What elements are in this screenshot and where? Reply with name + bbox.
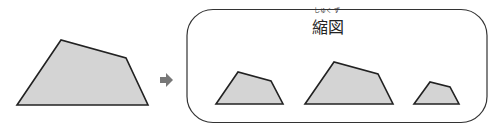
reduced-quadrilateral-2 bbox=[305, 62, 393, 104]
ruby-shuku: しゅく bbox=[314, 6, 332, 14]
original-quadrilateral bbox=[17, 40, 148, 105]
reduced-quadrilateral-3 bbox=[414, 82, 459, 104]
diagram-canvas bbox=[0, 0, 503, 132]
ruby-zu: ず bbox=[334, 6, 340, 14]
reduced-quadrilateral-1 bbox=[216, 72, 283, 104]
right-arrow-icon bbox=[160, 73, 173, 87]
figure-title: 縮図 bbox=[303, 19, 353, 37]
